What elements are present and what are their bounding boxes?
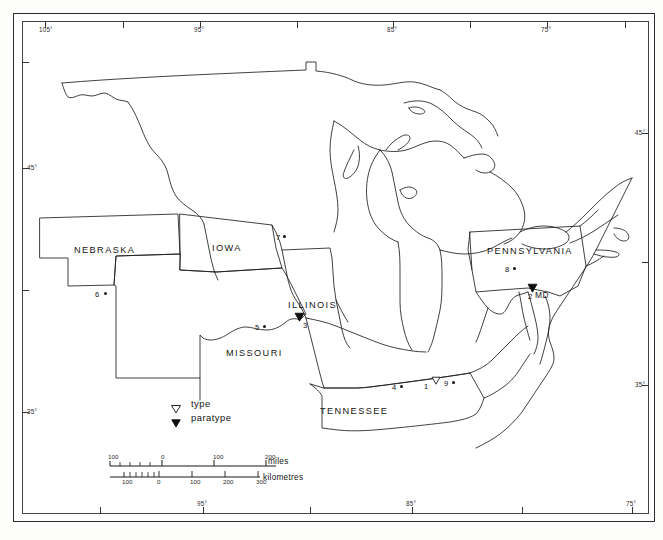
solid-triangle-down-icon — [170, 414, 182, 424]
locality-number-9: 9 — [444, 380, 448, 388]
legend-label-type: type — [191, 398, 211, 409]
scale-unit-kilometres: kilometres — [263, 473, 303, 482]
state-boundaries-group — [40, 102, 604, 431]
state-label-iowa: IOWA — [212, 243, 242, 253]
locality-number-8: 8 — [505, 266, 509, 274]
locality-dot-icon-9 — [452, 381, 455, 384]
locality-number-1: 1 — [424, 383, 428, 391]
locality-dot-icon-5 — [263, 325, 266, 328]
scale-tick-kilometres: 100 — [190, 478, 200, 485]
open-triangle-down-icon — [170, 400, 182, 410]
scale-tick-kilometres: 200 — [223, 478, 233, 485]
locality-number-3: 3 — [303, 322, 307, 330]
state-label-missouri: MISSOURI — [226, 348, 283, 358]
locality-dot-icon-6 — [104, 292, 107, 295]
open-triangle-down-icon-1 — [431, 376, 441, 385]
locality-number-4: 4 — [392, 384, 396, 392]
state-label-tennessee: TENNESSEE — [320, 406, 388, 416]
scale-tick-miles: 0 — [161, 453, 164, 460]
state-label-pennsylvania: PENNSYLVANIA — [487, 246, 573, 256]
locality-dot-icon-4 — [400, 385, 403, 388]
locality-number-6: 6 — [95, 291, 99, 299]
scale-tick-kilometres: 0 — [157, 478, 160, 485]
locality-number-5: 5 — [255, 324, 259, 332]
scale-bar: 10001002001000100200300 miles kilometres — [100, 452, 290, 488]
locality-dot-icon-7 — [283, 235, 286, 238]
scale-tick-kilometres: 100 — [122, 478, 132, 485]
solid-triangle-down-icon-3 — [294, 312, 305, 322]
solid-triangle-down-icon-2 — [527, 283, 538, 293]
scale-unit-miles: miles — [268, 457, 289, 466]
legend-label-paratype: paratype — [191, 412, 231, 423]
state-label-nebraska: NEBRASKA — [74, 245, 135, 255]
state-label-illinois: ILLINOIS — [288, 300, 337, 310]
scale-tick-miles: 100 — [213, 453, 223, 460]
locality-number-7: 7 — [276, 234, 280, 242]
figure-page: 105°95°85°75°95°85°75°45°35°45°35° — [0, 0, 663, 540]
locality-dot-icon-8 — [513, 267, 516, 270]
locality-number-2: 2 — [528, 293, 532, 301]
scale-tick-miles: 100 — [108, 453, 118, 460]
